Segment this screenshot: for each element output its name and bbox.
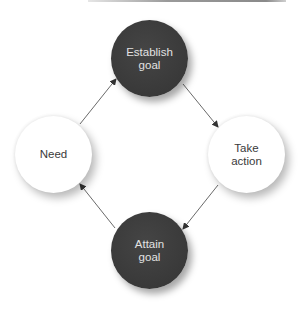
arrow-take-to-attain <box>183 185 218 229</box>
node-label: Attain goal <box>135 238 164 264</box>
node-establish-goal: Establish goal <box>111 20 188 97</box>
arrow-establish-to-take <box>183 84 218 127</box>
node-need: Need <box>15 116 92 193</box>
node-attain-goal: Attain goal <box>111 212 188 289</box>
node-label: Take action <box>231 142 262 168</box>
node-label: Establish goal <box>126 46 173 72</box>
arrow-need-to-establish <box>80 79 116 124</box>
arrow-attain-to-need <box>80 184 115 228</box>
node-label: Need <box>40 148 68 161</box>
node-take-action: Take action <box>208 116 285 193</box>
